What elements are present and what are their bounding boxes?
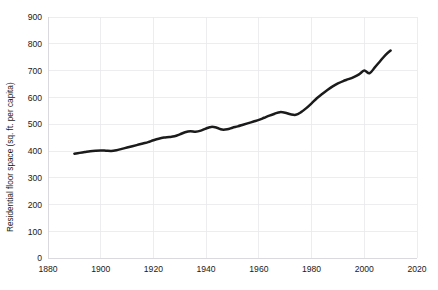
y-tick-label: 300: [28, 173, 43, 183]
y-tick-label: 100: [28, 227, 43, 237]
y-tick-label: 700: [28, 66, 43, 76]
y-tick-labels: 900 800 700 600 500 400 300 200 100 0: [28, 12, 43, 263]
y-tick-label: 200: [28, 200, 43, 210]
x-tick-label: 1920: [144, 264, 163, 274]
x-tick-label: 1880: [38, 264, 57, 274]
chart-container: Residential floor space (sq. ft. per cap…: [0, 0, 438, 290]
x-tick-labels: 1880 1900 1920 1940 1960 1980 2000 2020: [38, 264, 426, 274]
x-tick-label: 1940: [197, 264, 216, 274]
x-tick-label: 1960: [249, 264, 268, 274]
y-tick-label: 900: [28, 12, 43, 22]
y-tick-label: 400: [28, 146, 43, 156]
y-tick-label: 800: [28, 39, 43, 49]
y-tick-label: 600: [28, 93, 43, 103]
y-tick-label: 0: [37, 253, 42, 263]
y-gridlines: [48, 17, 417, 258]
x-gridlines: [48, 17, 417, 258]
y-axis-title: Residential floor space (sq. ft. per cap…: [6, 82, 15, 232]
x-tick-label: 2000: [355, 264, 374, 274]
line-chart: Residential floor space (sq. ft. per cap…: [0, 0, 438, 290]
data-line-residential-floor-space: [74, 51, 390, 154]
x-tick-label: 1900: [91, 264, 110, 274]
y-tick-label: 500: [28, 119, 43, 129]
x-tick-label: 1980: [302, 264, 321, 274]
y-axis-title-text: Residential floor space (sq. ft. per cap…: [6, 82, 15, 232]
x-tick-label: 2020: [407, 264, 426, 274]
